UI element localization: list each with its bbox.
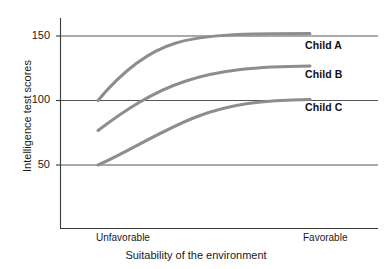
chart-figure: 150 100 50 Unfavorable Favorable Child A… (0, 0, 392, 269)
series-label-child-c: Child C (305, 101, 342, 113)
x-axis-title: Suitability of the environment (0, 249, 392, 261)
curve-child-b (98, 66, 310, 131)
xtick-label-unfavorable: Unfavorable (96, 232, 150, 243)
y-axis-title: Intelligence test scores (21, 26, 33, 206)
series-label-child-b: Child B (305, 68, 342, 80)
xtick-label-favorable: Favorable (303, 232, 347, 243)
series-label-child-a: Child A (305, 39, 342, 51)
